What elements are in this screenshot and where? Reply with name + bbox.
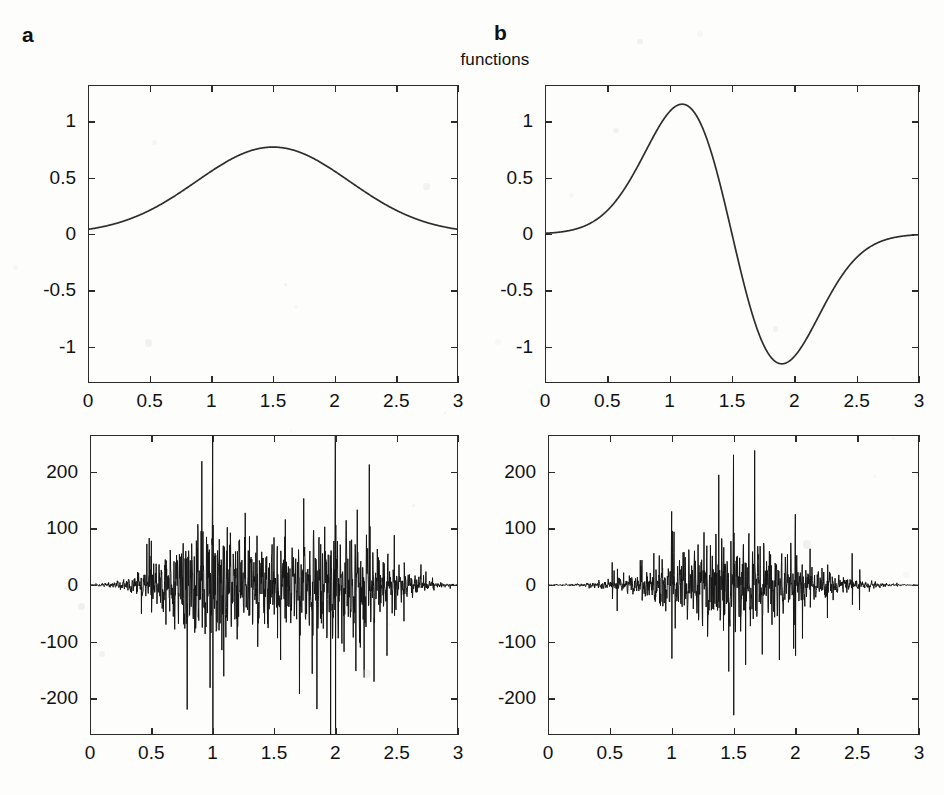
- x-axis-tick: [88, 376, 89, 383]
- x-axis-tick: [213, 728, 214, 735]
- y-axis-tick: [88, 290, 95, 291]
- x-axis-tick-label: 1: [666, 742, 677, 764]
- x-axis-tick: [274, 435, 275, 442]
- x-axis-tick-label: 2: [790, 742, 801, 764]
- x-axis-tick-label: 0: [83, 390, 94, 412]
- x-axis-tick-label: 0.5: [594, 390, 620, 412]
- scan-artifact: [290, 430, 292, 432]
- scan-artifact: [637, 39, 642, 44]
- y-axis-tick-label: -200: [498, 687, 536, 709]
- y-axis-tick: [545, 347, 552, 348]
- plot-frame: [90, 435, 458, 735]
- y-axis-tick: [912, 121, 919, 122]
- x-axis-tick-label: 1.5: [719, 390, 745, 412]
- y-axis-tick: [912, 290, 919, 291]
- x-axis-tick-label: 0.5: [136, 390, 162, 412]
- x-axis-tick-label: 1.5: [720, 742, 746, 764]
- x-axis-tick: [672, 728, 673, 735]
- x-axis-tick: [732, 85, 733, 92]
- x-axis-tick-label: 0.5: [597, 742, 623, 764]
- y-axis-tick-label: -100: [498, 631, 536, 653]
- x-axis-tick: [794, 376, 795, 383]
- y-axis-tick-label: 0.5: [507, 167, 533, 189]
- y-axis-tick-label: 1: [65, 110, 76, 132]
- scan-artifact: [873, 475, 876, 478]
- x-axis-tick: [610, 435, 611, 442]
- y-axis-tick: [451, 585, 458, 586]
- y-axis-tick: [912, 234, 919, 235]
- x-axis-tick-label: 3: [914, 390, 925, 412]
- x-axis-tick: [397, 728, 398, 735]
- x-axis-tick: [919, 376, 920, 383]
- y-axis-tick: [90, 528, 97, 529]
- plot-frame: [548, 435, 919, 735]
- plot-panel-b-function: 10.50-0.5-100.511.522.53: [545, 85, 919, 383]
- x-axis-tick: [150, 85, 151, 92]
- y-axis-tick-label: 0: [525, 574, 536, 596]
- y-axis-tick: [88, 121, 95, 122]
- y-axis-tick-label: -100: [40, 631, 78, 653]
- y-axis-tick-label: 1: [522, 110, 533, 132]
- x-axis-tick: [857, 728, 858, 735]
- y-axis-tick: [451, 472, 458, 473]
- y-axis-tick: [545, 234, 552, 235]
- scan-artifact: [78, 603, 85, 610]
- plot-panel-a-function: 10.50-0.5-100.511.522.53: [88, 85, 458, 383]
- y-axis-tick-label: 200: [504, 461, 536, 483]
- x-axis-tick: [150, 376, 151, 383]
- x-axis-tick: [919, 85, 920, 92]
- x-axis-tick: [274, 728, 275, 735]
- x-axis-tick-label: 1: [664, 390, 675, 412]
- x-axis-tick: [795, 435, 796, 442]
- y-axis-tick-label: -200: [40, 687, 78, 709]
- x-axis-tick: [734, 728, 735, 735]
- y-axis-tick: [548, 585, 555, 586]
- y-axis-tick: [451, 121, 458, 122]
- x-axis-tick: [458, 376, 459, 383]
- x-axis-tick: [794, 85, 795, 92]
- x-axis-tick-label: 3: [914, 742, 925, 764]
- y-axis-tick-label: 0.5: [50, 167, 76, 189]
- x-axis-tick: [670, 85, 671, 92]
- x-axis-tick: [273, 85, 274, 92]
- y-axis-tick: [548, 642, 555, 643]
- y-axis-tick: [451, 698, 458, 699]
- y-axis-tick: [88, 347, 95, 348]
- x-axis-tick: [90, 728, 91, 735]
- x-axis-tick: [670, 376, 671, 383]
- y-axis-tick: [88, 178, 95, 179]
- x-axis-tick-label: 1.5: [261, 742, 287, 764]
- x-axis-tick-label: 2: [789, 390, 800, 412]
- x-axis-tick: [335, 85, 336, 92]
- x-axis-tick-label: 2.5: [844, 742, 870, 764]
- x-axis-tick: [732, 376, 733, 383]
- x-axis-tick: [458, 728, 459, 735]
- panel-label-b: b: [494, 22, 507, 43]
- y-axis-tick: [912, 178, 919, 179]
- y-axis-tick: [548, 472, 555, 473]
- panel-label-a: a: [22, 24, 34, 45]
- x-axis-tick: [458, 435, 459, 442]
- x-axis-tick: [919, 728, 920, 735]
- x-axis-tick: [919, 435, 920, 442]
- y-axis-tick: [451, 528, 458, 529]
- x-axis-tick: [857, 376, 858, 383]
- x-axis-tick: [672, 435, 673, 442]
- x-axis-tick: [548, 728, 549, 735]
- y-axis-tick-label: 0: [522, 223, 533, 245]
- scan-artifact: [13, 265, 18, 270]
- x-axis-tick: [734, 435, 735, 442]
- x-axis-tick: [548, 435, 549, 442]
- scan-artifact: [444, 412, 446, 414]
- x-axis-tick: [211, 85, 212, 92]
- y-axis-tick: [545, 178, 552, 179]
- scan-artifact: [145, 339, 152, 346]
- y-axis-tick: [88, 234, 95, 235]
- y-axis-tick: [912, 347, 919, 348]
- x-axis-tick-label: 3: [453, 742, 464, 764]
- scan-artifact: [773, 326, 778, 331]
- y-axis-tick: [90, 698, 97, 699]
- y-axis-tick-label: 0: [65, 223, 76, 245]
- y-axis-tick: [451, 234, 458, 235]
- x-axis-tick-label: 2.5: [383, 390, 409, 412]
